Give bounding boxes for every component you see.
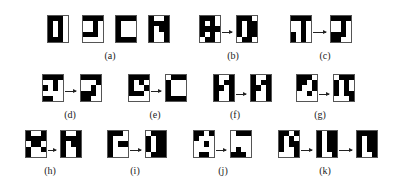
glyph-a-1 (82, 15, 104, 43)
arrow-icon (339, 150, 352, 151)
arrow-icon (236, 94, 246, 95)
glyph-c-0 (290, 15, 312, 43)
glyph-i-1 (145, 130, 167, 158)
glyph-i-0 (107, 130, 129, 158)
arrow-icon (65, 91, 76, 92)
glyph-h-0 (25, 130, 47, 158)
glyph-cell (161, 152, 166, 157)
arrow-icon (48, 150, 56, 151)
panel-label-d: (d) (64, 109, 76, 120)
glyph-cell (372, 152, 377, 157)
panel-label-e: (e) (149, 109, 160, 120)
glyph-k-0 (278, 130, 300, 158)
arrow-icon (319, 94, 329, 95)
glyph-cell (252, 37, 257, 42)
glyph-cell (246, 152, 251, 157)
glyph-a-2 (115, 15, 137, 43)
glyph-cell (266, 96, 271, 101)
glyph-cell (123, 152, 128, 157)
glyph-cell (96, 96, 101, 101)
glyph-cell (181, 96, 186, 101)
panel-label-b: (b) (227, 50, 239, 61)
glyph-g-0 (296, 74, 318, 102)
glyph-e-0 (128, 74, 150, 102)
panel-label-j: (j) (218, 165, 227, 176)
arrow-icon (216, 150, 226, 151)
glyph-e-1 (165, 74, 187, 102)
glyph-cell (229, 96, 234, 101)
glyph-cell (63, 37, 68, 42)
panel-label-c: (c) (319, 50, 330, 61)
glyph-a-0 (47, 15, 69, 43)
arrow-icon (130, 150, 141, 151)
glyph-f-1 (250, 74, 272, 102)
glyph-cell (76, 152, 81, 157)
glyph-cell (41, 152, 46, 157)
glyph-cell (131, 37, 136, 42)
glyph-cell (98, 37, 103, 42)
panel-label-i: (i) (130, 165, 139, 176)
glyph-b-1 (236, 15, 258, 43)
glyph-cell (349, 96, 354, 101)
panel-label-f: (f) (230, 109, 240, 120)
arrow-icon (301, 150, 312, 151)
panel-label-h: (h) (44, 165, 56, 176)
glyph-g-1 (333, 74, 355, 102)
arrow-icon (222, 32, 232, 33)
glyph-h-1 (60, 130, 82, 158)
glyph-cell (312, 96, 317, 101)
glyph-cell (215, 37, 220, 42)
glyph-j-0 (193, 130, 215, 158)
glyph-cell (346, 37, 351, 42)
glyph-cell (58, 96, 63, 101)
glyph-j-1 (230, 130, 252, 158)
glyph-a-3 (148, 15, 170, 43)
glyph-cell (209, 152, 214, 157)
arrow-icon (151, 91, 161, 92)
glyph-cell (294, 152, 299, 157)
arrow-icon (313, 32, 326, 33)
glyph-cell (332, 152, 337, 157)
panel-label-g: (g) (314, 109, 326, 120)
panel-label-k: (k) (319, 165, 331, 176)
glyph-cell (144, 96, 149, 101)
glyph-d-0 (42, 74, 64, 102)
glyph-cell (164, 37, 169, 42)
glyph-k-2 (356, 130, 378, 158)
glyph-b-0 (199, 15, 221, 43)
glyph-c-1 (330, 15, 352, 43)
glyph-cell (306, 37, 311, 42)
glyph-d-1 (80, 74, 102, 102)
panel-label-a: (a) (104, 50, 115, 61)
glyph-k-1 (316, 130, 338, 158)
glyph-f-0 (213, 74, 235, 102)
